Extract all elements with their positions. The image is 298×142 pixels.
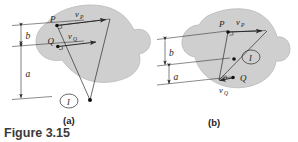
panel-sublabel-a: (a) — [63, 115, 75, 126]
point-Q-dot-a — [56, 45, 60, 49]
panel-a: b a P Q v P v Q — [12, 5, 150, 126]
dimension-label-a-b: a — [174, 72, 179, 82]
vector-sublabel-vP-a: P — [79, 14, 84, 20]
extension-line-a-bottom — [12, 97, 52, 100]
dimension-label-b-a: b — [26, 31, 31, 41]
figure-svg: b a P Q v P v Q — [0, 0, 298, 142]
point-Q-dot-b — [231, 76, 235, 80]
point-label-Q-a: Q — [48, 36, 55, 46]
vector-label-vQ-b: v — [219, 85, 223, 95]
point-label-P-b: P — [218, 19, 225, 29]
point-center-dot-b — [232, 57, 236, 61]
panel-sublabel-b: (b) — [208, 117, 220, 128]
vector-sublabel-vQ-a: Q — [73, 36, 77, 42]
instantaneous-center-label-a: I — [66, 97, 71, 107]
point-label-Q-b: Q — [240, 73, 247, 83]
point-P-dot-a — [55, 24, 59, 28]
point-label-P-a: P — [49, 14, 56, 24]
vector-label-vQ-a: v — [68, 31, 72, 41]
figure-caption: Figure 3.15 — [4, 126, 70, 140]
dimension-label-b-b: b — [169, 48, 174, 58]
point-P-dot-b — [226, 30, 230, 34]
vector-sublabel-vQ-b: Q — [224, 90, 228, 96]
figure-container: b a P Q v P v Q — [0, 0, 298, 142]
panel-b: b a P Q v P v Q — [157, 9, 290, 128]
vector-label-vP-a: v — [75, 9, 79, 19]
vector-label-vP-b: v — [236, 17, 240, 27]
vector-sublabel-vP-b: P — [240, 22, 245, 28]
dimension-label-a-a: a — [26, 69, 31, 79]
point-I-dot-a — [88, 98, 92, 102]
